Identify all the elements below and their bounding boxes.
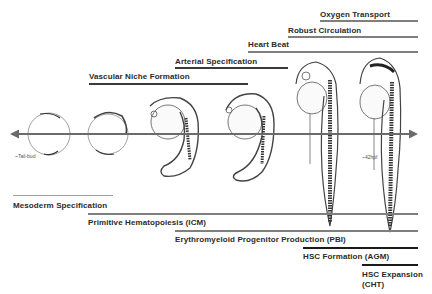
arrowhead-left-icon	[10, 130, 19, 139]
label-erythromyeloid-progenitor: Erythromyeloid Progenitor Production (PB…	[175, 235, 346, 244]
bar-oxygen-transport	[320, 20, 418, 22]
label-heart-beat: Heart Beat	[248, 40, 289, 49]
label-vascular-niche-formation: Vascular Niche Formation	[89, 72, 190, 81]
bar-hsc-formation	[303, 247, 418, 249]
bar-heart-beat	[248, 51, 418, 53]
label-arterial-specification: Arterial Specification	[175, 57, 257, 66]
label-primitive-hematopoiesis: Primitive Hematopoiesis (ICM)	[88, 218, 206, 227]
bar-robust-circulation	[288, 36, 418, 38]
bar-hsc-expansion	[362, 264, 418, 266]
embryo-mid-somite	[150, 98, 198, 177]
embryo-long-pec	[360, 58, 401, 232]
embryo-prim-stage	[296, 62, 338, 226]
label-hsc-expansion: HSC Expansion	[362, 270, 423, 279]
label-oxygen-transport: Oxygen Transport	[320, 10, 390, 19]
embryo-late-somite	[226, 94, 274, 181]
bar-mesoderm-specification	[13, 195, 113, 196]
bar-arterial-specification	[175, 67, 288, 69]
marker-42hpf: ~42hpf	[362, 154, 377, 160]
bar-vascular-niche-formation	[89, 83, 248, 85]
label-robust-circulation: Robust Circulation	[288, 26, 361, 35]
label-hsc-expansion-site: (CHT)	[362, 280, 384, 289]
timeline-illustration	[0, 0, 432, 294]
arrowhead-right-icon	[409, 130, 418, 139]
marker-tailbud: ~Tail-bud	[15, 153, 35, 159]
label-mesoderm-specification: Mesoderm Specification	[13, 201, 107, 210]
bar-erythromyeloid-progenitor	[175, 230, 418, 232]
label-hsc-formation: HSC Formation (AGM)	[303, 252, 389, 261]
timeline-arrow	[10, 130, 418, 139]
bar-primitive-hematopoiesis	[88, 213, 418, 215]
